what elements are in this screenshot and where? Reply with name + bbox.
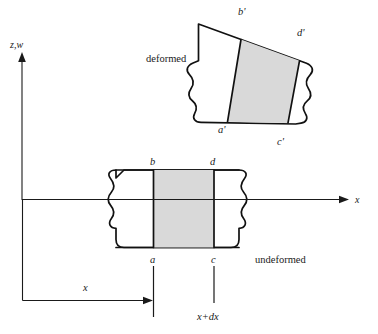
deformed-label-b-prime: b': [238, 6, 246, 17]
deformed-body-group: b' d' a' c' deformed: [146, 6, 312, 147]
deformed-label-d-prime: d': [297, 27, 305, 38]
undeformed-label-a: a: [150, 254, 155, 265]
horizontal-axis-arrowhead: [339, 196, 349, 204]
undeformed-label-c: c: [211, 254, 216, 265]
undeformed-state-label: undeformed: [255, 254, 306, 265]
undeformed-label-b: b: [150, 156, 155, 167]
undeformed-body-group: b d a c undeformed: [108, 156, 306, 265]
deformed-state-label: deformed: [146, 53, 187, 64]
undeformed-label-d: d: [210, 156, 216, 167]
undeformed-element-fill: [154, 170, 215, 248]
x-plus-dx-dimension-label: x+dx: [196, 311, 219, 322]
deformed-label-c-prime: c': [277, 136, 285, 147]
vertical-axis-arrowhead: [18, 52, 26, 62]
vertical-axis-group: z,w: [9, 39, 26, 200]
horizontal-axis-label: x: [354, 194, 360, 205]
figure-root: z,w x b' d' a' c' deformed: [0, 0, 378, 334]
x-dimension-label: x: [82, 282, 88, 293]
beam-deformation-diagram: z,w x b' d' a' c' deformed: [0, 0, 378, 334]
x-dimension-arrowhead: [143, 297, 153, 305]
vertical-axis-label: z,w: [9, 39, 23, 50]
deformed-label-a-prime: a': [218, 124, 226, 135]
